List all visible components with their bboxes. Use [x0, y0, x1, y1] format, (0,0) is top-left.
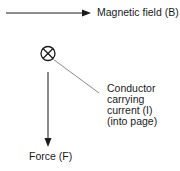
- conductor-leader-line: [54, 60, 100, 94]
- conductor-into-page-icon: [41, 47, 55, 61]
- force-arrow-icon: [45, 72, 52, 147]
- conductor-label: Conductor carrying current (I) (into pag…: [107, 83, 157, 127]
- conductor-label-line-4: (into page): [107, 116, 157, 127]
- force-label: Force (F): [29, 151, 72, 162]
- magnetic-field-label: Magnetic field (B): [97, 7, 179, 18]
- magnetic-field-arrow-icon: [6, 10, 91, 17]
